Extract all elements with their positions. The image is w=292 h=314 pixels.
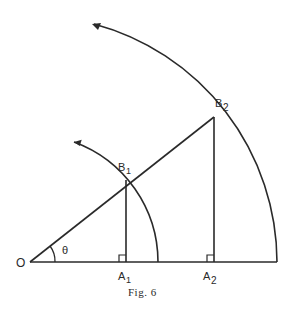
b1-label: B <box>118 161 125 173</box>
outer-arc <box>94 24 277 262</box>
fig6-diagram: O θ A 1 A 2 B 1 B 2 Fig. 6 <box>0 0 292 314</box>
a2-label: A <box>203 270 211 282</box>
a2-subscript: 2 <box>211 275 217 286</box>
angle-label: θ <box>62 244 68 256</box>
figure-caption: Fig. 6 <box>128 286 157 298</box>
inner-arc <box>74 142 158 262</box>
right-angle-a2 <box>207 255 214 262</box>
ray-ob2 <box>30 117 214 262</box>
angle-arc <box>50 246 55 262</box>
outer-arrowhead-icon <box>92 23 101 30</box>
right-angle-a1 <box>119 255 126 262</box>
origin-label: O <box>16 256 25 270</box>
a1-subscript: 1 <box>126 275 131 285</box>
a1-label: A <box>118 270 126 282</box>
b2-label: B <box>215 97 222 109</box>
b2-subscript: 2 <box>223 102 229 113</box>
b1-subscript: 1 <box>126 166 131 176</box>
